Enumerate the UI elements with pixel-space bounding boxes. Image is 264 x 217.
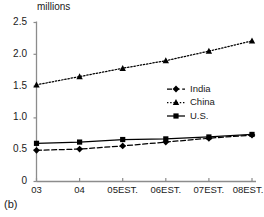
x-axis-tick-label: 07EST. bbox=[194, 184, 225, 195]
chart-axes bbox=[34, 22, 257, 182]
y-axis-tick-label: 0 bbox=[5, 175, 27, 186]
panel-caption: (b) bbox=[4, 198, 17, 210]
y-axis-tick-label: 2.0 bbox=[5, 48, 27, 59]
chart-series bbox=[33, 38, 255, 154]
y-axis-unit-label: millions bbox=[37, 1, 70, 12]
x-axis-tick-label: 04 bbox=[74, 184, 85, 195]
x-axis-tick-label: 05EST. bbox=[107, 184, 138, 195]
figure-panel: millions 00.51.01.52.02.5 030405EST.06ES… bbox=[0, 0, 264, 217]
legend-item-u-s: U.S. bbox=[190, 110, 208, 121]
y-axis-tick-label: 0.5 bbox=[5, 143, 27, 154]
legend-markers bbox=[167, 86, 185, 119]
y-axis-tick-label: 1.5 bbox=[5, 80, 27, 91]
x-axis-tick-label: 08EST. bbox=[233, 184, 264, 195]
y-axis-tick-label: 1.0 bbox=[5, 111, 27, 122]
legend-item-india: India bbox=[190, 83, 211, 94]
y-axis-tick-label: 2.5 bbox=[5, 16, 27, 27]
x-axis-tick-label: 03 bbox=[31, 184, 42, 195]
x-axis-tick-label: 06EST. bbox=[150, 184, 181, 195]
legend-item-china: China bbox=[190, 96, 215, 107]
